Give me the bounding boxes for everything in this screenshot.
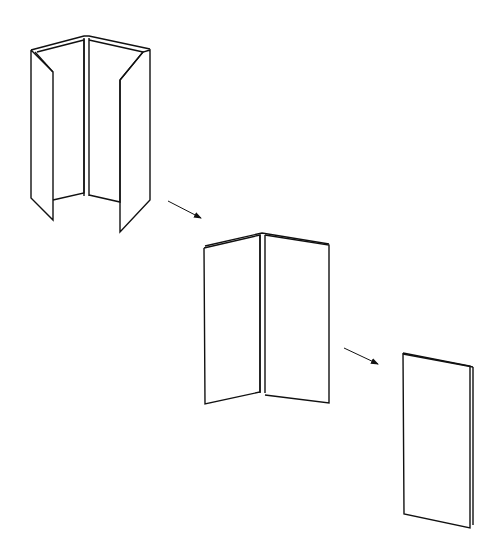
- step-1-open-gatefold: [31, 36, 150, 232]
- step-arrows: [168, 201, 378, 364]
- right-inner-panel: [89, 40, 143, 202]
- left-flap-fold-inner: [35, 52, 53, 72]
- arrow-step2-to-step3-icon: [344, 348, 378, 364]
- step-3-folded: [403, 353, 473, 528]
- arrow-step1-to-step2-icon: [168, 201, 201, 218]
- diagram-canvas: [0, 0, 504, 557]
- front-panel: [403, 353, 470, 528]
- left-outer-flap: [31, 50, 53, 220]
- step-2-bifold: [204, 233, 329, 404]
- fold-steps: [31, 36, 473, 528]
- left-panel: [204, 235, 260, 404]
- top-edge: [31, 36, 150, 50]
- folding-sequence-diagram: [0, 0, 504, 557]
- right-panel: [265, 235, 329, 403]
- top-edge-double: [403, 354, 473, 367]
- right-outer-flap: [120, 50, 150, 232]
